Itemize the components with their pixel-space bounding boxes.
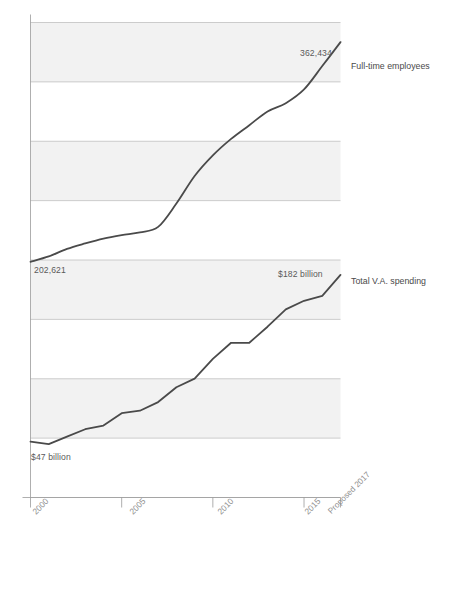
- annotation-spending-start-value: $47 billion: [31, 453, 71, 462]
- background-bands: [31, 23, 341, 439]
- chart-figure: 362,434 202,621 $182 billion $47 billion…: [0, 0, 461, 592]
- series-label-total-va-spending: Total V.A. spending: [351, 277, 426, 286]
- series-label-full-time-employees: Full-time employees: [351, 62, 430, 71]
- annotation-spending-end-value: $182 billion: [278, 270, 323, 279]
- annotation-employees-end-value: 362,434: [300, 49, 332, 58]
- axis-ticks: [31, 498, 341, 508]
- label-leader-lines: [341, 42, 349, 279]
- annotation-employees-start-value: 202,621: [34, 266, 66, 275]
